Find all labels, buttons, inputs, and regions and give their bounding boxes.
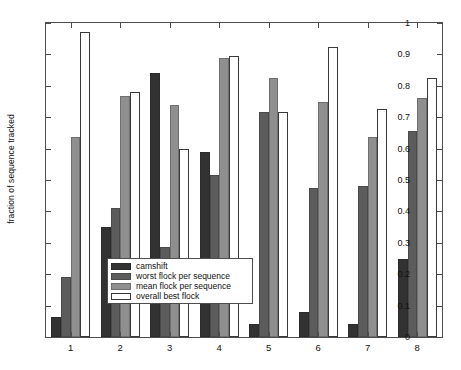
- y-axis-tick-mark-right: [437, 243, 442, 244]
- y-axis-tick-mark: [46, 243, 51, 244]
- bar-6-series-3: [318, 102, 328, 338]
- x-axis-tick-label: 6: [316, 342, 321, 353]
- y-axis-tick-mark: [46, 306, 51, 307]
- y-axis-tick-mark: [46, 149, 51, 150]
- y-axis-tick-mark: [46, 86, 51, 87]
- x-axis-tick-mark-top: [368, 23, 369, 28]
- bar-7-series-4: [377, 109, 387, 337]
- y-axis-tick-mark: [46, 180, 51, 181]
- x-axis-tick-mark-top: [71, 23, 72, 28]
- x-axis-tick-mark-top: [417, 23, 418, 28]
- y-axis-tick-mark-right: [437, 306, 442, 307]
- y-axis-tick-label: 0.1: [397, 301, 410, 311]
- y-axis-tick-mark-right: [437, 117, 442, 118]
- y-axis-tick-mark-right: [437, 274, 442, 275]
- x-axis-tick-mark-top: [170, 23, 171, 28]
- x-axis-tick-label: 2: [118, 342, 123, 353]
- x-axis-tick-mark: [318, 332, 319, 337]
- x-axis-tick-mark: [417, 332, 418, 337]
- y-axis-tick-mark: [46, 117, 51, 118]
- y-axis-tick-mark-right: [437, 337, 442, 338]
- x-axis-tick-mark-top: [318, 23, 319, 28]
- y-axis-tick-label: 0.8: [397, 81, 410, 91]
- bar-6-series-4: [328, 47, 338, 337]
- bar-5-series-2: [259, 112, 269, 337]
- legend-item: worst flock per sequence: [111, 271, 249, 281]
- x-axis-tick-mark: [71, 332, 72, 337]
- x-axis-tick-mark-top: [219, 23, 220, 28]
- y-axis-tick-label: 0.9: [397, 49, 410, 59]
- x-axis-tick-mark: [120, 332, 121, 337]
- legend-swatch-icon: [111, 293, 131, 300]
- x-axis-tick-label: 3: [167, 342, 172, 353]
- x-axis-tick-mark: [368, 332, 369, 337]
- y-axis-tick-mark: [46, 23, 51, 24]
- legend-label: worst flock per sequence: [136, 272, 230, 281]
- legend-item: mean flock per sequence: [111, 281, 249, 291]
- x-axis-tick-label: 4: [217, 342, 222, 353]
- bar-7-series-3: [368, 137, 378, 337]
- bar-4-series-2: [210, 175, 220, 337]
- bar-3-series-4: [179, 149, 189, 337]
- bar-4-series-1: [200, 152, 210, 337]
- x-axis-tick-label: 7: [365, 342, 370, 353]
- legend-label: mean flock per sequence: [136, 282, 231, 291]
- x-axis-tick-mark: [170, 332, 171, 337]
- legend-label: overall best flock: [136, 292, 199, 301]
- x-axis-tick-mark: [219, 332, 220, 337]
- x-axis-tick-mark-top: [269, 23, 270, 28]
- legend-item: overall best flock: [111, 292, 249, 302]
- y-axis-tick-label: 0.5: [397, 175, 410, 185]
- y-axis-tick-mark-right: [437, 23, 442, 24]
- y-axis-tick-mark-right: [437, 86, 442, 87]
- bar-1-series-1: [51, 317, 61, 337]
- chart-legend: camshiftworst flock per sequencemean flo…: [107, 258, 253, 304]
- y-axis-tick-label: 0.7: [397, 112, 410, 122]
- legend-swatch-icon: [111, 263, 131, 270]
- y-axis-tick-mark: [46, 54, 51, 55]
- bar-5-series-3: [269, 78, 279, 337]
- bar-8-series-3: [417, 98, 427, 337]
- bar-1-series-3: [71, 137, 81, 337]
- bar-8-series-4: [427, 78, 437, 337]
- x-axis-tick-label: 1: [68, 342, 73, 353]
- y-axis-tick-mark-right: [437, 54, 442, 55]
- y-axis-title: fraction of sequence tracked: [0, 0, 22, 338]
- legend-swatch-icon: [111, 283, 131, 290]
- x-axis-tick-mark: [269, 332, 270, 337]
- bar-chart-figure: fraction of sequence tracked camshiftwor…: [0, 0, 461, 370]
- y-axis-tick-mark-right: [437, 180, 442, 181]
- x-axis-tick-label: 5: [266, 342, 271, 353]
- legend-swatch-icon: [111, 273, 131, 280]
- bar-6-series-2: [309, 188, 319, 337]
- y-axis-tick-mark-right: [437, 211, 442, 212]
- bar-7-series-2: [358, 186, 368, 337]
- y-axis-title-text: fraction of sequence tracked: [6, 114, 16, 224]
- bar-5-series-4: [278, 112, 288, 337]
- y-axis-tick-label: 0.3: [397, 238, 410, 248]
- y-axis-tick-mark: [46, 274, 51, 275]
- y-axis-tick-label: 0.4: [397, 206, 410, 216]
- y-axis-tick-mark: [46, 337, 51, 338]
- y-axis-tick-label: 0.2: [397, 269, 410, 279]
- bar-6-series-1: [299, 312, 309, 337]
- legend-item: camshift: [111, 261, 249, 271]
- x-axis-tick-mark-top: [120, 23, 121, 28]
- y-axis-tick-label: 1: [405, 18, 410, 28]
- x-axis-tick-label: 8: [415, 342, 420, 353]
- legend-label: camshift: [136, 262, 168, 271]
- bar-1-series-2: [61, 277, 71, 337]
- bar-7-series-1: [348, 324, 358, 337]
- bar-1-series-4: [80, 32, 90, 337]
- y-axis-tick-mark-right: [437, 149, 442, 150]
- y-axis-tick-label: 0.6: [397, 144, 410, 154]
- bar-5-series-1: [249, 324, 259, 337]
- y-axis-tick-mark: [46, 211, 51, 212]
- y-axis-tick-label: 0: [405, 332, 410, 342]
